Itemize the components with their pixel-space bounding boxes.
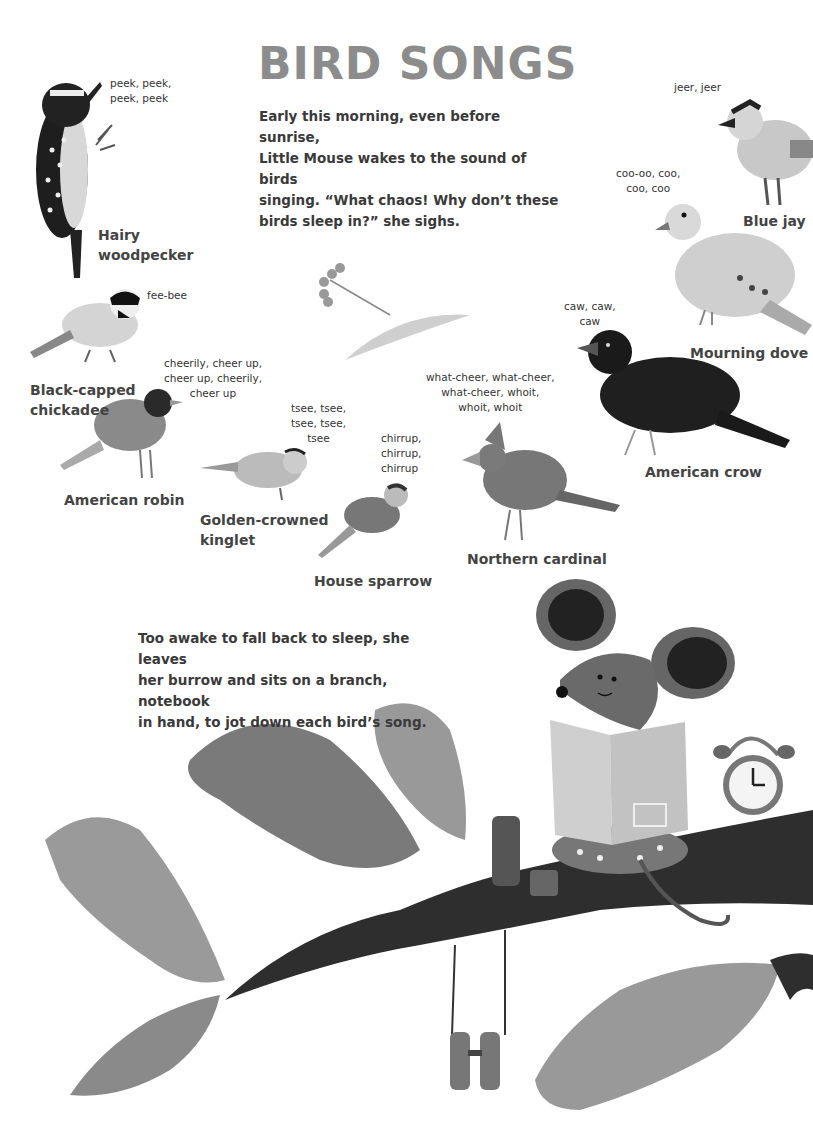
chickadee-label: Black-capped chickadee	[30, 380, 136, 420]
name-line: American crow	[645, 462, 762, 482]
mourning-dove-label: Mourning dove	[690, 343, 808, 363]
robin-label: American robin	[64, 490, 185, 510]
song-line: coo-oo, coo,	[616, 166, 680, 181]
name-line: Black-capped	[30, 380, 136, 400]
name-line: Mourning dove	[690, 343, 808, 363]
sparrow-label: House sparrow	[314, 571, 432, 591]
outro-paragraph: Too awake to fall back to sleep, she lea…	[138, 628, 458, 733]
cardinal-song: what-cheer, what-cheer, what-cheer, whoi…	[426, 370, 555, 415]
name-line: kinglet	[200, 530, 328, 550]
name-line: American robin	[64, 490, 185, 510]
song-line: peek, peek	[110, 91, 171, 106]
song-line: jeer, jeer	[674, 80, 721, 95]
song-line: cheerily, cheer up,	[164, 356, 262, 371]
song-line: fee-bee	[147, 288, 187, 303]
song-line: tsee, tsee,	[291, 416, 346, 431]
outro-line: Too awake to fall back to sleep, she lea…	[138, 628, 458, 670]
song-line: what-cheer, what-cheer,	[426, 370, 555, 385]
name-line: Blue jay	[743, 211, 806, 231]
book-illustration	[550, 720, 688, 845]
page-title: BIRD SONGS	[258, 38, 577, 89]
binoculars-illustration	[450, 930, 505, 1090]
song-line: what-cheer, whoit,	[426, 385, 555, 400]
name-line: Golden-crowned	[200, 510, 328, 530]
song-line: caw, caw,	[564, 299, 616, 314]
song-line: coo, coo	[616, 181, 680, 196]
kinglet-illustration	[200, 449, 307, 500]
kinglet-label: Golden-crowned kinglet	[200, 510, 328, 550]
intro-line: Little Mouse wakes to the sound of birds	[259, 148, 559, 190]
name-line: chickadee	[30, 400, 136, 420]
intro-line: Early this morning, even before sunrise,	[259, 106, 559, 148]
mourning-dove-song: coo-oo, coo, coo, coo	[616, 166, 680, 196]
cardinal-label: Northern cardinal	[467, 549, 607, 569]
song-line: peek, peek,	[110, 76, 171, 91]
song-line: caw	[564, 314, 616, 329]
song-line: chirrup,	[381, 431, 421, 446]
outro-line: her burrow and sits on a branch, noteboo…	[138, 670, 458, 712]
name-line: Hairy	[98, 225, 193, 245]
linden-sprig-illustration	[319, 263, 470, 360]
name-line: House sparrow	[314, 571, 432, 591]
chickadee-illustration	[30, 289, 140, 362]
woodpecker-song: peek, peek, peek, peek	[110, 76, 171, 106]
name-line: woodpecker	[98, 245, 193, 265]
alarm-clock-illustration	[713, 739, 795, 816]
song-line: chirrup,	[381, 446, 421, 461]
crow-label: American crow	[645, 462, 762, 482]
outro-line: in hand, to jot down each bird’s song.	[138, 712, 458, 733]
sparrow-illustration	[318, 483, 408, 558]
intro-line: singing. “What chaos! Why don’t these	[259, 190, 559, 211]
sparrow-song: chirrup, chirrup, chirrup	[381, 431, 421, 476]
song-line: tsee	[291, 431, 346, 446]
cardinal-illustration	[462, 422, 620, 540]
blue-jay-illustration	[718, 102, 813, 205]
blue-jay-song: jeer, jeer	[674, 80, 721, 95]
name-line: Northern cardinal	[467, 549, 607, 569]
crow-song: caw, caw, caw	[564, 299, 616, 329]
robin-song: cheerily, cheer up, cheer up, cheerily, …	[164, 356, 262, 401]
song-line: cheer up	[164, 386, 262, 401]
intro-line: birds sleep in?” she sighs.	[259, 211, 559, 232]
woodpecker-label: Hairy woodpecker	[98, 225, 193, 265]
kinglet-song: tsee, tsee, tsee, tsee, tsee	[291, 401, 346, 446]
intro-paragraph: Early this morning, even before sunrise,…	[259, 106, 559, 232]
song-line: whoit, whoit	[426, 400, 555, 415]
song-line: cheer up, cheerily,	[164, 371, 262, 386]
song-line: tsee, tsee,	[291, 401, 346, 416]
blue-jay-label: Blue jay	[743, 211, 806, 231]
chickadee-song: fee-bee	[147, 288, 187, 303]
song-line: chirrup	[381, 461, 421, 476]
